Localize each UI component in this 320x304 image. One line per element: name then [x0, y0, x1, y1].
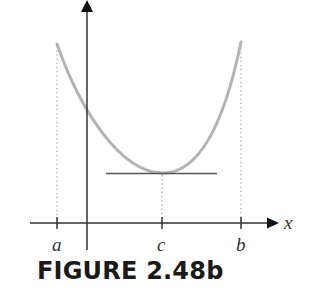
- curve: [57, 42, 241, 173]
- tick-label-c: c: [157, 234, 166, 255]
- figure-caption: FIGURE 2.48b: [37, 257, 224, 285]
- x-axis-label: x: [283, 212, 293, 233]
- tick-label-a: a: [52, 234, 62, 255]
- x-axis-arrow-icon: [267, 218, 279, 229]
- tick-label-b: b: [236, 234, 246, 255]
- y-axis-arrow-icon: [81, 0, 93, 12]
